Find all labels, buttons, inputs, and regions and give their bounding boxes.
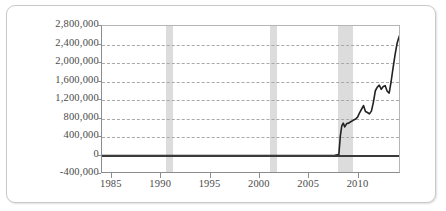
x-axis-tick-label: 1995 xyxy=(187,178,233,189)
x-axis-tick xyxy=(308,173,309,178)
x-axis-tick-label: 2005 xyxy=(285,178,331,189)
y-axis-tick-label: 0 xyxy=(15,149,99,159)
series-line xyxy=(102,26,400,173)
y-axis-tick-label: -400,000 xyxy=(15,167,99,177)
y-axis-tick-label: 1,200,000 xyxy=(15,93,99,103)
x-axis-tick-label: 2010 xyxy=(335,178,381,189)
y-axis-tick-label: 1,600,000 xyxy=(15,75,99,85)
y-axis-tick-label: 2,400,000 xyxy=(15,38,99,48)
x-axis-tick-label: 1985 xyxy=(88,178,134,189)
x-axis-tick xyxy=(358,173,359,178)
y-axis-tick-label: 800,000 xyxy=(15,112,99,122)
x-axis-tick xyxy=(259,173,260,178)
x-axis-tick xyxy=(210,173,211,178)
y-axis-tick-label: 2,000,000 xyxy=(15,56,99,66)
chart-figure: 2,800,0002,400,0002,000,0001,600,0001,20… xyxy=(6,5,436,203)
y-axis-tick-label: 2,800,000 xyxy=(15,19,99,29)
x-axis-tick xyxy=(111,173,112,178)
y-axis-tick-label: 400,000 xyxy=(15,130,99,140)
x-axis-tick-label: 1990 xyxy=(137,178,183,189)
zero-line xyxy=(102,155,399,157)
y-axis-tick xyxy=(97,173,101,174)
x-axis-tick xyxy=(160,173,161,178)
x-axis-tick-label: 2000 xyxy=(236,178,282,189)
plot-area xyxy=(101,25,400,173)
